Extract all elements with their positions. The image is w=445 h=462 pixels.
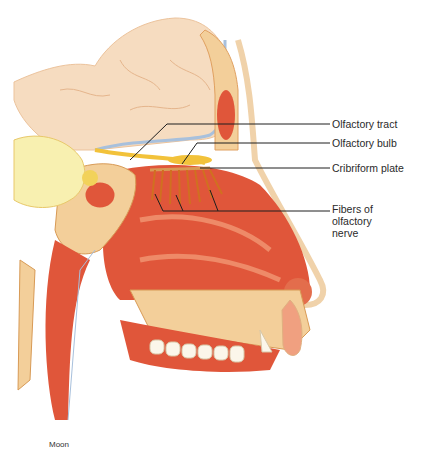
label-cribriform-plate: Cribriform plate [332, 162, 404, 174]
label-fibers-line3: nerve [332, 227, 358, 239]
olfactory-anatomy-diagram: Olfactory tract Olfactory bulb Cribrifor… [0, 0, 445, 462]
brain [14, 18, 230, 150]
frontal-sinus [217, 90, 235, 140]
label-olfactory-tract: Olfactory tract [332, 118, 397, 130]
label-fibers-line1: Fibers of [332, 203, 373, 215]
pharynx [46, 240, 90, 420]
label-fibers-line2: olfactory [332, 215, 372, 227]
anatomy-illustration [0, 0, 445, 462]
artist-credit: Moon [49, 440, 69, 449]
olfactory-bulb [168, 155, 212, 165]
label-olfactory-bulb: Olfactory bulb [332, 137, 397, 149]
